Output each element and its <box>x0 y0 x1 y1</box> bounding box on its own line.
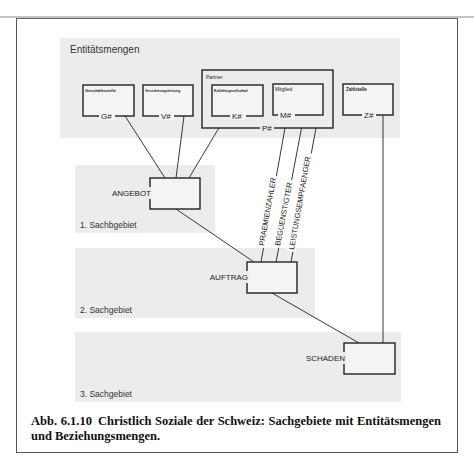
caption-number: Abb. 6.1.10 <box>31 414 92 428</box>
relationship-name: ANGEBOT <box>112 189 151 198</box>
region-entities-label: Entitätsmengen <box>70 44 140 55</box>
relationship-name: AUFTRAG <box>210 273 248 282</box>
entity-kollektivgesellschaft: Kollektivgesellschaft K# <box>212 85 263 121</box>
region-area1-label: 1. Sachbgebiet <box>80 220 137 230</box>
partner-key: P# <box>262 124 272 133</box>
entity-key: G# <box>101 112 112 121</box>
region-area3-label: 3. Sachgebiet <box>80 389 133 399</box>
entity-geschaeftsstelle: Geschäftsstelle G# <box>83 85 134 121</box>
partner-label: Partner <box>206 74 223 80</box>
entity-zahlstelle: Zahlstelle Z# <box>343 84 393 120</box>
figure-caption: Abb. 6.1.10Christlich Soziale der Schwei… <box>31 414 441 444</box>
entity-key: V# <box>161 112 171 121</box>
entity-key: Z# <box>364 111 374 120</box>
er-diagram: Entitätsmengen 1. Sachbgebiet 2. Sachgeb… <box>0 0 474 469</box>
caption-text: Christlich Soziale der Schweiz: Sachgebi… <box>31 414 441 443</box>
entity-name: Versicherungsleistung <box>145 89 180 93</box>
entity-key: M# <box>280 111 292 120</box>
role-leistungsempfaenger: LEISTUNGSEMPFAENGER <box>287 155 312 250</box>
role-labels: PRAEMIENZAHLER BEGUENSTIGTER LEISTUNGSEM… <box>257 152 313 252</box>
entity-name: Mitglied <box>275 86 292 92</box>
entity-key: K# <box>232 112 242 121</box>
entity-name: Kollektivgesellschaft <box>214 89 249 93</box>
entity-name: Geschäftsstelle <box>85 88 117 93</box>
entity-versicherungsleistung: Versicherungsleistung V# <box>143 85 193 121</box>
region-area2-label: 2. Sachgebiet <box>80 305 133 315</box>
entity-name: Zahlstelle <box>346 87 367 92</box>
entity-mitglied: Mitglied M# <box>273 84 323 120</box>
relationship-name: SCHADEN <box>306 354 345 363</box>
